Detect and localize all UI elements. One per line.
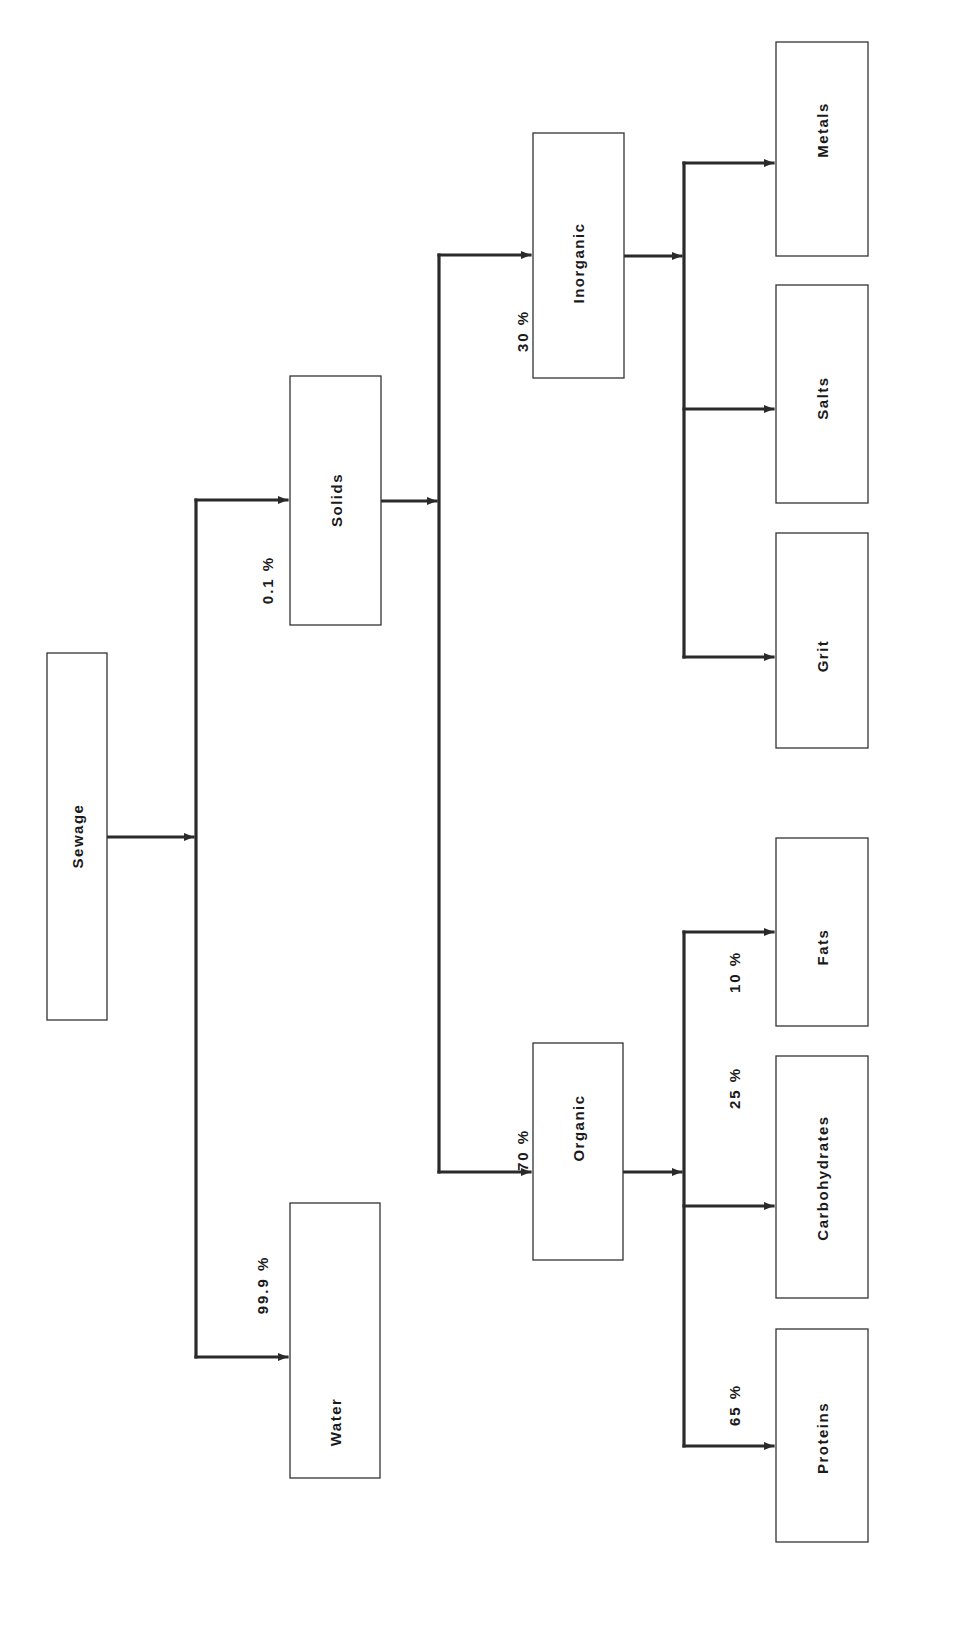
node-grit: Grit bbox=[776, 533, 868, 748]
water-label: Water bbox=[327, 1398, 344, 1447]
salts-label: Salts bbox=[814, 376, 831, 419]
node-carbohydrates: Carbohydrates bbox=[776, 1056, 868, 1298]
proteins-label: Proteins bbox=[814, 1402, 831, 1474]
connectors bbox=[107, 163, 773, 1446]
percent-fats: 10 % bbox=[726, 951, 743, 993]
node-fats: Fats bbox=[776, 838, 868, 1026]
node-water: Water bbox=[290, 1203, 380, 1478]
percent-inorganic: 30 % bbox=[514, 310, 531, 352]
node-solids: Solids bbox=[290, 376, 381, 625]
node-salts: Salts bbox=[776, 285, 868, 503]
percent-proteins: 65 % bbox=[726, 1384, 743, 1426]
percent-organic: 70 % bbox=[514, 1129, 531, 1171]
node-sewage: Sewage bbox=[47, 653, 107, 1020]
node-metals: Metals bbox=[776, 42, 868, 256]
node-inorganic: Inorganic bbox=[533, 133, 624, 378]
organic-label: Organic bbox=[570, 1094, 587, 1161]
percent-solids: 0.1 % bbox=[259, 556, 276, 604]
solids-label: Solids bbox=[328, 473, 345, 527]
metals-label: Metals bbox=[814, 102, 831, 158]
inorganic-label: Inorganic bbox=[570, 222, 587, 303]
node-organic: Organic bbox=[533, 1043, 623, 1260]
fats-label: Fats bbox=[814, 929, 831, 966]
node-proteins: Proteins bbox=[776, 1329, 868, 1542]
carbohydrates-label: Carbohydrates bbox=[814, 1115, 831, 1240]
sewage-composition-diagram: Sewage Solids Water Inorganic Organic Me… bbox=[0, 0, 960, 1650]
sewage-label: Sewage bbox=[69, 804, 86, 869]
percent-water: 99.9 % bbox=[254, 1256, 271, 1315]
grit-label: Grit bbox=[814, 640, 831, 673]
percent-carbohydrates: 25 % bbox=[726, 1067, 743, 1109]
